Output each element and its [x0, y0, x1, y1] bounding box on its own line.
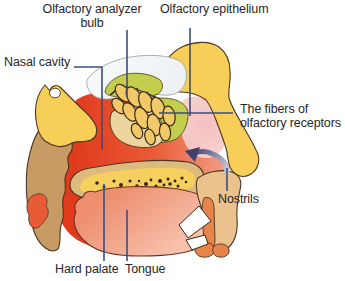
label-olfactory-analyzer-bulb-line2: bulb	[34, 16, 150, 30]
frontal-bone-left-region	[35, 85, 96, 147]
sinus-opening	[50, 88, 61, 98]
olfactory-diagram: Olfactory analyzer bulb Olfactory epithe…	[0, 0, 345, 281]
anatomy-illustration	[0, 0, 345, 281]
label-nostrils: Nostrils	[218, 192, 259, 206]
label-olfactory-analyzer-bulb: Olfactory analyzer bulb	[34, 2, 150, 30]
label-fibers-of-olfactory-receptors: The fibers of olfactory receptors	[240, 102, 341, 130]
label-hard-palate: Hard palate	[55, 262, 119, 276]
label-fibers-line2: olfactory receptors	[240, 116, 341, 130]
label-nasal-cavity: Nasal cavity	[4, 55, 70, 69]
label-fibers-line1: The fibers of	[240, 102, 341, 116]
label-olfactory-analyzer-bulb-line1: Olfactory analyzer	[34, 2, 150, 16]
label-tongue: Tongue	[125, 262, 165, 276]
label-olfactory-epithelium: Olfactory epithelium	[160, 2, 268, 16]
